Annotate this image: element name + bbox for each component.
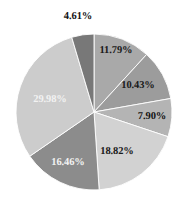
- pie-slice-label: 4.61%: [64, 12, 92, 23]
- pie-slice-label: 10.43%: [121, 81, 155, 92]
- pie-slice-label: 11.79%: [100, 46, 133, 57]
- pie-slice-label: 16.46%: [51, 158, 85, 169]
- pie-chart-canvas: [0, 0, 188, 210]
- pie-slice-label: 29.98%: [33, 95, 67, 106]
- pie-slice-label: 18.82%: [100, 147, 134, 158]
- pie-slice-label: 7.90%: [138, 112, 166, 123]
- pie-chart: 11.79%10.43%7.90%18.82%16.46%29.98%4.61%: [0, 0, 188, 210]
